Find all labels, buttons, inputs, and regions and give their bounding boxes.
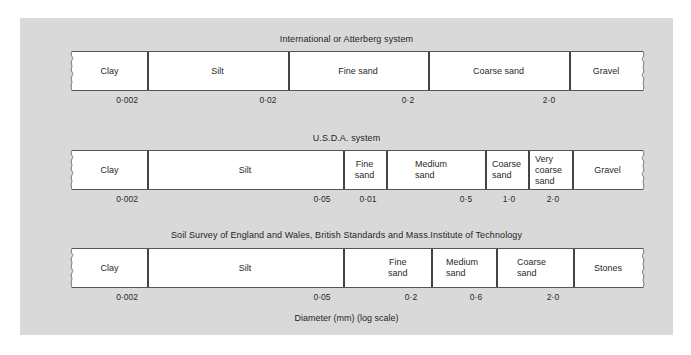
- segment-gravel: Gravel: [572, 151, 643, 189]
- tick-label: 0·05: [313, 194, 330, 204]
- segment-coarse-sand: Coarsesand: [485, 151, 528, 189]
- segment-silt: Silt: [147, 52, 288, 90]
- segment-silt: Silt: [147, 151, 343, 189]
- segment-fine-sand: Fine sand: [288, 52, 428, 90]
- segment-fine-sand: Finesand: [343, 249, 431, 287]
- tick-label: 0·02: [259, 95, 276, 105]
- segment-clay: Clay: [72, 249, 147, 287]
- segment-medium-sand: Mediumsand: [386, 151, 485, 189]
- tick-label: 0·5: [460, 194, 472, 204]
- axis-label: Diameter (mm) (log scale): [20, 313, 673, 323]
- segment-silt: Silt: [147, 249, 343, 287]
- system-title-international: International or Atterberg system: [20, 34, 673, 44]
- tick-label: 0·2: [402, 95, 414, 105]
- tick-label: 0·002: [116, 194, 138, 204]
- segment-stones: Stones: [573, 249, 643, 287]
- bar-international: Clay Silt Fine sand Coarse sand Gravel: [72, 51, 643, 91]
- tick-label: 1·0: [503, 194, 515, 204]
- segment-coarse-sand: Coarsesand: [496, 249, 573, 287]
- segment-clay: Clay: [72, 151, 147, 189]
- segment-medium-sand: Mediumsand: [431, 249, 496, 287]
- segment-clay: Clay: [72, 52, 147, 90]
- tick-label: 2·0: [543, 95, 555, 105]
- tick-label: 0·6: [470, 292, 482, 302]
- bar-usda: Clay Silt Finesand Mediumsand Coarsesand…: [72, 150, 643, 190]
- segment-fine-sand: Finesand: [343, 151, 386, 189]
- tick-label: 2·0: [547, 292, 559, 302]
- segment-coarse-sand: Coarse sand: [428, 52, 569, 90]
- system-title-usda: U.S.D.A. system: [20, 133, 673, 143]
- diagram-panel: International or Atterberg system Clay S…: [20, 18, 673, 335]
- tick-label: 0·01: [359, 194, 376, 204]
- tick-label: 0·002: [116, 292, 138, 302]
- tick-label: 0·05: [313, 292, 330, 302]
- segment-very-coarse-sand: Verycoarsesand: [528, 151, 572, 189]
- system-title-england-wales: Soil Survey of England and Wales, Britis…: [20, 230, 673, 240]
- tick-label: 2·0: [547, 194, 559, 204]
- segment-gravel: Gravel: [569, 52, 643, 90]
- tick-label: 0·2: [405, 292, 417, 302]
- bar-england-wales: Clay Silt Finesand Mediumsand Coarsesand…: [72, 248, 643, 288]
- tick-label: 0·002: [116, 95, 138, 105]
